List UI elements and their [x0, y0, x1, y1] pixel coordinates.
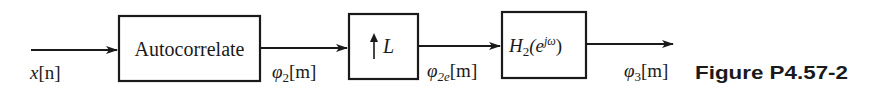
- upsampler-label: L: [382, 35, 394, 57]
- signal-input-label: x[n]: [29, 62, 61, 83]
- figure-caption: Figure P4.57-2: [695, 63, 848, 83]
- up-arrow-icon: [370, 33, 378, 59]
- autocorrelate-label: Autocorrelate: [135, 38, 245, 60]
- block-diagram: x[n] Autocorrelate φ2[m] L φ2e[m] H2(ejω…: [0, 0, 886, 97]
- signal-phi3-label: φ3[m]: [624, 60, 668, 84]
- signal-phi2-label: φ2[m]: [272, 61, 316, 85]
- signal-phi2e-label: φ2e[m]: [427, 60, 477, 84]
- filter-label: H2(ejω): [508, 34, 562, 59]
